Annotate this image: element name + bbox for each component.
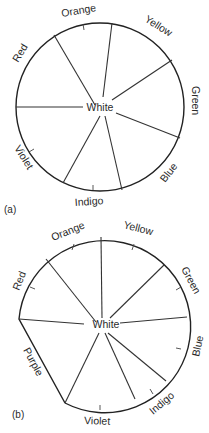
figure-a: White Red Orange Yellow Green Blue Indig… bbox=[4, 1, 202, 215]
label-green: Green bbox=[190, 86, 202, 115]
label-orange: Orange bbox=[49, 219, 86, 243]
tick-green bbox=[176, 287, 181, 290]
label-red: Red bbox=[10, 41, 30, 64]
label-orange: Orange bbox=[60, 1, 97, 19]
figure-a-caption: (a) bbox=[4, 204, 16, 215]
label-red: Red bbox=[10, 269, 28, 292]
label-blue: Blue bbox=[189, 334, 205, 357]
label-yellow: Yellow bbox=[123, 218, 155, 237]
label-violet: Violet bbox=[84, 414, 111, 427]
label-indigo: Indigo bbox=[74, 194, 104, 208]
label-blue: Blue bbox=[157, 160, 179, 184]
center-label-white: White bbox=[87, 101, 114, 113]
figure-b-caption: (b) bbox=[12, 409, 24, 420]
label-yellow: Yellow bbox=[143, 13, 175, 39]
tick-blue bbox=[176, 348, 181, 349]
tick-red bbox=[30, 287, 35, 289]
center-label-white: White bbox=[93, 318, 120, 330]
color-circle-diagram: White Red Orange Yellow Green Blue Indig… bbox=[0, 0, 209, 433]
figure-b: White Red Orange Yellow Green Blue Indig… bbox=[10, 218, 206, 427]
tick-violet bbox=[29, 149, 34, 152]
label-indigo: Indigo bbox=[147, 389, 177, 417]
tick-indigo bbox=[150, 389, 153, 394]
